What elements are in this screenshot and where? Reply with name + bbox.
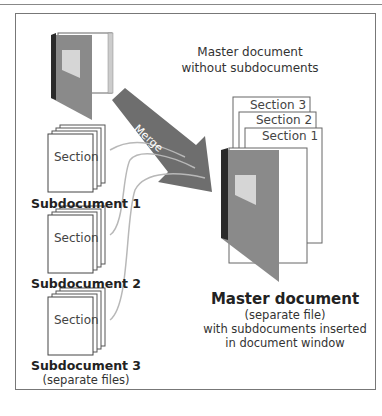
top-caption-line2: without subdocuments bbox=[175, 60, 325, 76]
subdocument-2-section-label: Section bbox=[54, 231, 99, 245]
subdocument-2-label: Subdocument 2 bbox=[16, 276, 156, 291]
master-caption-line2: with subdocuments inserted bbox=[190, 322, 380, 336]
master-document-caption: (separate file) with subdocuments insert… bbox=[190, 308, 380, 350]
master-section-1-label: Section 1 bbox=[262, 129, 318, 143]
top-caption: Master document without subdocuments bbox=[175, 44, 325, 76]
separate-files-note: (separate files) bbox=[16, 373, 156, 387]
subdocument-3-section-label: Section bbox=[54, 313, 99, 327]
master-section-3-label: Section 3 bbox=[250, 98, 306, 112]
master-section-2-label: Section 2 bbox=[256, 113, 312, 127]
master-book-icon bbox=[51, 33, 113, 120]
subdocument-3-label: Subdocument 3 bbox=[16, 358, 156, 373]
subdocument-1-section-label: Section bbox=[54, 150, 99, 164]
top-caption-line1: Master document bbox=[175, 44, 325, 60]
master-caption-line1: (separate file) bbox=[190, 308, 380, 322]
master-caption-line3: in document window bbox=[190, 336, 380, 350]
subdocument-1-label: Subdocument 1 bbox=[16, 196, 156, 211]
master-document-title: Master document bbox=[205, 290, 365, 308]
